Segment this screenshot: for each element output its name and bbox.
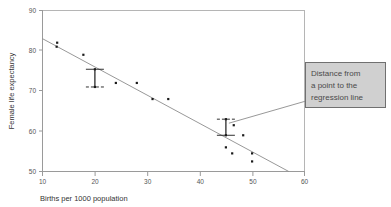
y-tick-label-70: 70 <box>29 87 37 94</box>
x-axis-ticks: 10 20 30 40 50 60 <box>39 172 309 185</box>
data-point-10 <box>225 134 227 136</box>
data-point-7 <box>151 98 153 100</box>
callout-line-2: a point to the <box>311 81 358 90</box>
data-point-1 <box>56 46 58 48</box>
regression-line <box>43 39 289 172</box>
data-point-0 <box>56 42 58 44</box>
data-points <box>56 42 254 163</box>
y-tick-label-80: 80 <box>29 47 37 54</box>
data-point-9 <box>225 118 227 120</box>
x-tick-label-50: 50 <box>249 178 257 185</box>
x-tick-label-10: 10 <box>39 178 47 185</box>
y-tick-label-60: 60 <box>29 128 37 135</box>
data-point-13 <box>231 152 233 154</box>
data-point-2 <box>82 54 84 56</box>
data-point-3 <box>94 68 96 70</box>
callout-line-3: regression line <box>311 93 364 102</box>
data-point-16 <box>251 160 253 162</box>
distance-callout[interactable]: Distance from a point to the regression … <box>306 63 386 108</box>
data-point-12 <box>225 146 227 148</box>
regression-line-path <box>43 39 289 172</box>
data-point-6 <box>136 82 138 84</box>
callout-line-1: Distance from <box>311 69 361 78</box>
chart-canvas: 50 60 70 80 90 10 20 30 40 50 60 Births … <box>0 0 391 207</box>
y-axis-title: Female life expectancy <box>7 52 16 129</box>
x-tick-label-60: 60 <box>301 178 309 185</box>
data-point-4 <box>94 86 96 88</box>
y-tick-label-90: 90 <box>29 7 37 14</box>
data-point-11 <box>233 124 235 126</box>
y-tick-label-50: 50 <box>29 168 37 175</box>
scatter-plot-svg: 50 60 70 80 90 10 20 30 40 50 60 Births … <box>0 0 391 207</box>
data-point-14 <box>242 134 244 136</box>
x-tick-label-40: 40 <box>197 178 205 185</box>
data-point-15 <box>251 152 253 154</box>
y-axis-ticks: 50 60 70 80 90 <box>29 7 43 175</box>
callout-leader-line <box>229 101 306 123</box>
x-tick-label-20: 20 <box>91 178 99 185</box>
x-axis-title: Births per 1000 population <box>40 194 128 203</box>
data-point-5 <box>115 82 117 84</box>
plot-frame <box>42 10 305 172</box>
x-tick-label-30: 30 <box>144 178 152 185</box>
data-point-8 <box>167 98 169 100</box>
